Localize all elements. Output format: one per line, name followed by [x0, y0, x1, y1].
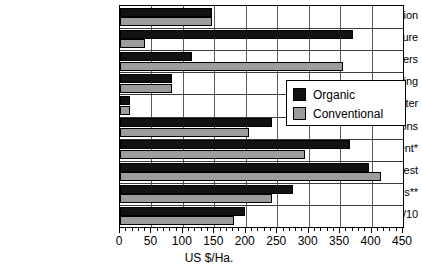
x-axis-minor-tick [364, 228, 365, 231]
x-axis-tick [182, 228, 183, 233]
x-axis-minor-tick [238, 228, 239, 231]
x-axis-minor-tick [232, 228, 233, 231]
x-axis-minor-tick [283, 228, 284, 231]
bar-organic [120, 96, 130, 105]
x-axis-minor-tick [176, 228, 177, 231]
x-axis-tick [245, 228, 246, 233]
x-axis-minor-tick [188, 228, 189, 231]
chart-legend: Organic Conventional [286, 80, 406, 126]
x-axis-minor-tick [327, 228, 328, 231]
x-axis-minor-tick [169, 228, 170, 231]
bar-conventional [120, 150, 305, 159]
bar-conventional [120, 17, 212, 26]
x-axis-tick [339, 228, 340, 233]
x-axis-tick [402, 228, 403, 233]
x-axis-minor-tick [320, 228, 321, 231]
x-axis-minor-tick [314, 228, 315, 231]
legend-item-organic: Organic [293, 85, 405, 104]
x-axis-minor-tick [163, 228, 164, 231]
x-axis-minor-tick [270, 228, 271, 231]
x-axis-minor-tick [138, 228, 139, 231]
x-axis-minor-tick [201, 228, 202, 231]
x-axis-tick [213, 228, 214, 233]
bar-organic [120, 8, 212, 17]
bar-organic [120, 30, 353, 39]
legend-item-conventional: Conventional [293, 104, 405, 123]
bar-organic [120, 52, 192, 61]
x-axis-minor-tick [125, 228, 126, 231]
x-axis-minor-tick [358, 228, 359, 231]
x-axis-tick [119, 228, 120, 233]
x-axis-minor-tick [383, 228, 384, 231]
bar-conventional [120, 172, 381, 181]
x-axis-minor-tick [295, 228, 296, 231]
bar-conventional [120, 84, 172, 93]
x-axis-minor-tick [264, 228, 265, 231]
x-axis-minor-tick [389, 228, 390, 231]
x-axis-minor-tick [289, 228, 290, 231]
x-axis-minor-tick [194, 228, 195, 231]
x-axis-minor-tick [251, 228, 252, 231]
x-axis-minor-tick [207, 228, 208, 231]
bar-conventional [120, 128, 249, 137]
x-axis-minor-tick [132, 228, 133, 231]
x-axis-minor-tick [396, 228, 397, 231]
x-axis-minor-tick [220, 228, 221, 231]
x-axis-tick [308, 228, 309, 233]
bar-conventional [120, 39, 145, 48]
bar-organic [120, 140, 350, 149]
x-axis-minor-tick [352, 228, 353, 231]
x-axis-minor-tick [157, 228, 158, 231]
x-axis-minor-tick [226, 228, 227, 231]
gray-square-swatch-icon [293, 107, 306, 120]
legend-label-organic: Organic [313, 89, 355, 101]
x-axis-title: US $/Ha. [0, 252, 418, 265]
x-axis-tick [371, 228, 372, 233]
bar-conventional [120, 194, 272, 203]
x-axis-tick-label: 450 [382, 235, 422, 247]
x-axis-minor-tick [377, 228, 378, 231]
legend-label-conventional: Conventional [313, 108, 383, 120]
bar-organic [120, 163, 369, 172]
bar-organic [120, 74, 172, 83]
x-axis-minor-tick [345, 228, 346, 231]
x-axis-tick [276, 228, 277, 233]
x-axis-minor-tick [257, 228, 258, 231]
x-axis-minor-tick [333, 228, 334, 231]
bar-organic [120, 118, 272, 127]
bar-conventional [120, 62, 343, 71]
bar-conventional [120, 106, 130, 115]
bar-organic [120, 185, 293, 194]
bar-organic [120, 207, 245, 216]
x-axis-minor-tick [144, 228, 145, 231]
x-axis-minor-tick [301, 228, 302, 231]
black-square-swatch-icon [293, 88, 306, 101]
x-axis-tick [150, 228, 151, 233]
bar-conventional [120, 216, 234, 225]
